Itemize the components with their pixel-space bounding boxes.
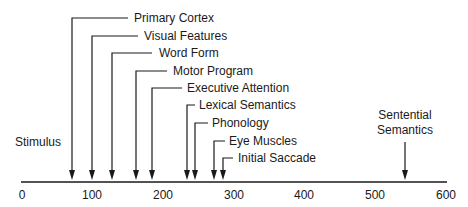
label-motor-program: Motor Program (173, 64, 253, 78)
label-eye-muscles: Eye Muscles (229, 134, 297, 148)
tick-label: 500 (365, 188, 385, 202)
tick-label: 600 (436, 188, 456, 202)
arrow-executive-attention (149, 88, 182, 180)
tick-label: 300 (224, 188, 244, 202)
arrow-visual-features (89, 36, 138, 180)
arrow-word-form (109, 53, 152, 180)
arrow-primary-cortex (69, 18, 128, 180)
arrow-sentential-semantics (402, 142, 408, 180)
tick-label: 400 (294, 188, 314, 202)
arrow-phonology (192, 123, 208, 180)
tick-label: 0 (19, 188, 26, 202)
label-visual-features: Visual Features (144, 29, 227, 43)
arrow-initial-saccade (220, 158, 233, 180)
tick-label: 100 (82, 188, 102, 202)
label-stimulus: Stimulus (15, 135, 61, 149)
arrow-motor-program (133, 71, 167, 180)
label-lexical-semantics: Lexical Semantics (199, 98, 296, 112)
label-sentential-semantics-line1: Sentential (378, 108, 431, 122)
label-sentential-semantics-line2: Semantics (377, 123, 433, 137)
label-primary-cortex: Primary Cortex (134, 11, 214, 25)
tick-label: 200 (153, 188, 173, 202)
label-phonology: Phonology (212, 116, 269, 130)
arrow-lexical-semantics (184, 105, 195, 180)
label-word-form: Word Form (159, 46, 219, 60)
label-executive-attention: Executive Attention (187, 81, 289, 95)
label-initial-saccade: Initial Saccade (238, 151, 316, 165)
